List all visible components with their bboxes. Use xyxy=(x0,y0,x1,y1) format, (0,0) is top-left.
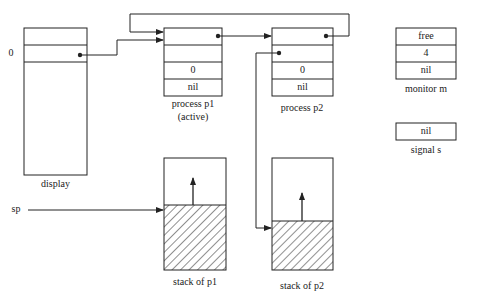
display-index-label: 0 xyxy=(6,47,16,58)
p1-cell-4: nil xyxy=(164,81,222,92)
p2-to-p1-loop-arrow xyxy=(130,14,349,36)
p1-cell-3: 0 xyxy=(164,64,222,75)
stack-p1 xyxy=(164,158,226,270)
p1-label: process p1 xyxy=(153,98,233,109)
p2-cell-3: 0 xyxy=(272,64,333,75)
p2-cell-4: nil xyxy=(272,81,333,92)
stack-p2-label: stack of p2 xyxy=(262,280,342,291)
p1-sublabel: (active) xyxy=(153,111,233,122)
signal-label: signal s xyxy=(386,144,466,155)
monitor-cell-3: nil xyxy=(396,64,456,75)
monitor-cell-2: 4 xyxy=(396,47,456,58)
display-array xyxy=(24,28,87,175)
stack-p2 xyxy=(272,158,333,270)
signal-cell: nil xyxy=(396,125,456,136)
p2-label: process p2 xyxy=(262,102,342,113)
stack-p1-label: stack of p1 xyxy=(155,276,235,287)
display-label: display xyxy=(24,178,87,189)
sp-label: sp xyxy=(8,203,24,214)
display-to-p1-arrow xyxy=(80,40,163,55)
monitor-cell-1: free xyxy=(396,30,456,41)
monitor-label: monitor m xyxy=(386,83,466,94)
